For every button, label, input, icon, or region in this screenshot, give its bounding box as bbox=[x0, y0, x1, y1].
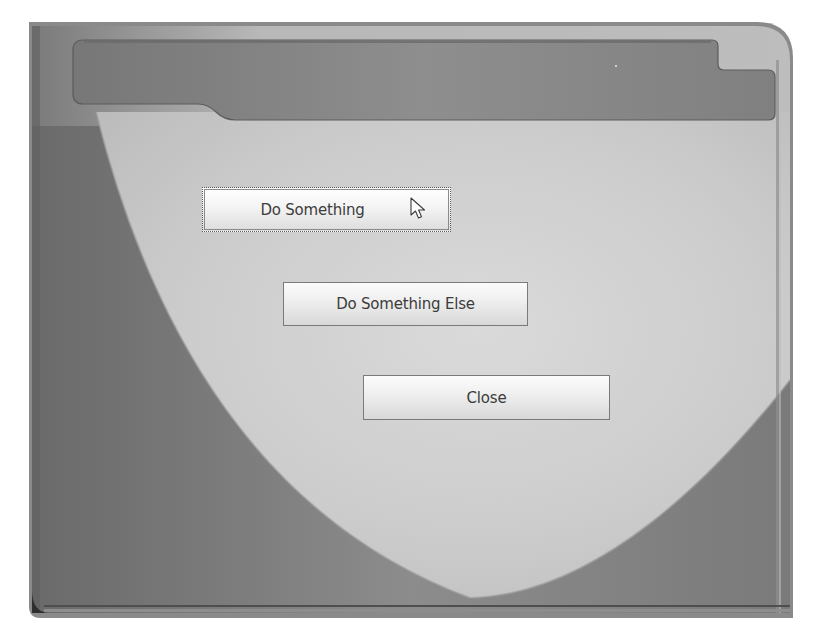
close-label: Close bbox=[467, 389, 507, 407]
do-something-button[interactable]: Do Something bbox=[202, 187, 451, 232]
do-something-else-button[interactable]: Do Something Else bbox=[283, 282, 528, 326]
application-window: Do Something Do Something Else Close bbox=[0, 0, 816, 641]
do-something-label: Do Something bbox=[260, 201, 364, 219]
close-button[interactable]: Close bbox=[363, 375, 610, 420]
do-something-else-label: Do Something Else bbox=[336, 295, 475, 313]
